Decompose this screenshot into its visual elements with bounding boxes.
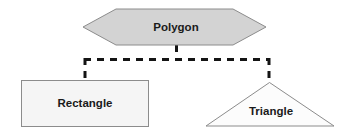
node-triangle-label: Triangle <box>249 105 293 117</box>
node-polygon[interactable]: Polygon <box>83 9 266 45</box>
node-polygon-label: Polygon <box>153 21 198 33</box>
shape-hierarchy-diagram: Polygon Rectangle Triangle <box>0 0 352 135</box>
node-triangle[interactable]: Triangle <box>206 83 334 127</box>
node-rectangle[interactable]: Rectangle <box>22 81 149 127</box>
diagram-canvas: Polygon Rectangle Triangle <box>0 0 352 135</box>
node-rectangle-label: Rectangle <box>58 97 113 109</box>
connector-group <box>84 45 270 83</box>
